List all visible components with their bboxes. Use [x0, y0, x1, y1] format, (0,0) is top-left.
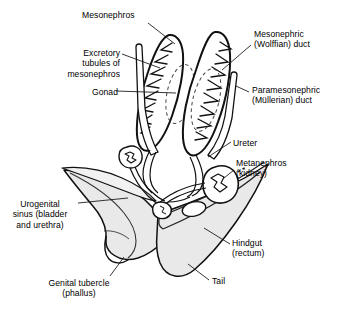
cloaca-junction	[153, 202, 172, 219]
label-hindgut-rectum: Hindgut (rectum)	[232, 238, 264, 259]
leader-paramesonephric-duct	[236, 86, 249, 92]
label-paramesonephric-mullerian-duct: Paramesonephric (Müllerian) duct	[252, 85, 320, 106]
label-urogenital-sinus: Urogenital sinus (bladder and urethra)	[2, 199, 78, 230]
label-ureter: Ureter	[233, 138, 257, 148]
label-gonad: Gonad	[0, 87, 118, 97]
label-tail: Tail	[212, 276, 225, 286]
figure-container: Mesonephros Excretory tubules of mesonep…	[0, 0, 349, 316]
label-genital-tubercle-phallus: Genital tubercle (phallus)	[46, 278, 112, 299]
mesonephric-duct-left-2	[150, 152, 158, 193]
label-excretory-tubules-of-mesonephros: Excretory tubules of mesonephros	[0, 48, 120, 79]
label-mesonephros: Mesonephros	[82, 10, 135, 20]
label-metanephros-kidney: Metanephros (kidney)	[236, 158, 287, 179]
label-mesonephric-wolffian-duct: Mesonephric (Wolffian) duct	[254, 29, 310, 50]
leader-genital-tubercle	[110, 257, 124, 276]
